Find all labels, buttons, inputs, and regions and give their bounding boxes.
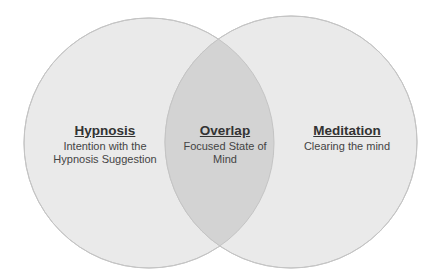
meditation-label: Meditation Clearing the mind xyxy=(304,123,390,153)
overlap-label: Overlap Focused State of Mind xyxy=(183,123,266,166)
hypnosis-description: Intention with the Hypnosis Suggestion xyxy=(53,140,156,166)
hypnosis-title: Hypnosis xyxy=(53,123,156,139)
hypnosis-label: Hypnosis Intention with the Hypnosis Sug… xyxy=(53,123,156,166)
meditation-title: Meditation xyxy=(304,123,390,139)
meditation-description: Clearing the mind xyxy=(304,140,390,153)
overlap-description: Focused State of Mind xyxy=(183,140,266,166)
overlap-title: Overlap xyxy=(183,123,266,139)
hypnosis-description-line-2: Hypnosis Suggestion xyxy=(53,153,156,166)
overlap-description-line-2: Mind xyxy=(183,153,266,166)
meditation-description-line-1: Clearing the mind xyxy=(304,140,390,153)
overlap-description-line-1: Focused State of xyxy=(183,140,266,153)
hypnosis-description-line-1: Intention with the xyxy=(53,140,156,153)
